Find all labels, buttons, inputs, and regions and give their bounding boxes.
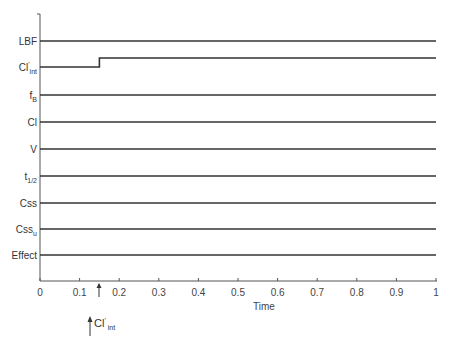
- trace-clint: [40, 58, 436, 67]
- x-tick-label: 0.4: [191, 287, 205, 298]
- x-tick-label: 0: [37, 287, 43, 298]
- x-tick-label: 0.3: [152, 287, 166, 298]
- x-tick-label: 0.2: [112, 287, 126, 298]
- chart: 00.10.20.30.40.50.60.70.80.91 Time LBFCl…: [0, 0, 453, 339]
- x-tick-label: 0.8: [350, 287, 364, 298]
- x-tick-label: 0.9: [389, 287, 403, 298]
- x-tick-label: 0.5: [231, 287, 245, 298]
- annotation-label: Cl'int: [94, 317, 115, 331]
- row-label: LBF: [19, 36, 37, 47]
- x-tick-label: 0.6: [271, 287, 285, 298]
- row-label: t1/2: [24, 171, 37, 184]
- row-label: Cssu: [16, 224, 37, 237]
- row-labels: LBFCl'intfBClVt1/2CssCssuEffect: [12, 36, 38, 261]
- x-axis-label: Time: [253, 301, 275, 312]
- row-label: Cl'int: [19, 61, 37, 75]
- row-label: V: [30, 144, 37, 155]
- step-marker-arrow: [97, 283, 102, 297]
- traces: [40, 41, 436, 255]
- y-axis: [37, 14, 40, 281]
- row-label: Css: [20, 198, 37, 209]
- row-label: Cl: [28, 117, 37, 128]
- row-label: fB: [30, 90, 38, 103]
- x-tick-label: 0.1: [73, 287, 87, 298]
- annotation-arrow-icon: [88, 316, 93, 336]
- x-tick-label: 0.7: [310, 287, 324, 298]
- row-label: Effect: [12, 250, 38, 261]
- x-tick-label: 1: [433, 287, 439, 298]
